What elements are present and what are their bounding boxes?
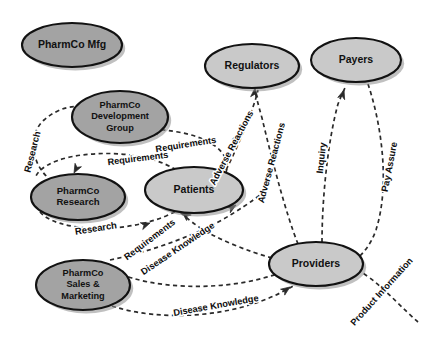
node-regulators[interactable]: Regulators <box>205 44 302 91</box>
node-label-regulators: Regulators <box>225 59 280 71</box>
node-providers[interactable]: Providers <box>269 242 366 289</box>
node-label-pharmco-sales-marketing: PharmCo <box>63 268 104 278</box>
edge-label-disease-knowledge-bottom: Disease KnowledgeDisease Knowledge <box>173 293 260 318</box>
arrowhead-inquiry <box>338 89 348 100</box>
edge-label-disease-knowledge-diagonal: Disease KnowledgeDisease Knowledge <box>139 220 216 277</box>
edge-label-adverse-reactions-regulators: Adverse ReactionsAdverse Reactions <box>256 122 287 205</box>
node-label-pharmco-research: PharmCo <box>57 185 100 196</box>
edge-sales-inbound <box>110 267 282 286</box>
node-label-pharmco-development-group: Development <box>91 111 149 121</box>
stakeholder-flow-diagram: PharmCo MfgPharmCoDevelopmentGroupPharmC… <box>0 0 428 341</box>
edge-path-pay-assure <box>334 84 383 270</box>
edge-label-text: Inquiry <box>314 141 328 174</box>
node-pharmco-mfg[interactable]: PharmCo Mfg <box>22 23 125 70</box>
node-label-pharmco-development-group: PharmCo <box>100 100 141 110</box>
edge-label-requirements-lower: RequirementsRequirements <box>107 150 169 167</box>
node-pharmco-sales-marketing[interactable]: PharmCoSales &Marketing <box>36 260 133 313</box>
arrowhead-disease-knowledge-bottom <box>281 284 293 295</box>
node-payers[interactable]: Payers <box>311 38 404 85</box>
node-label-pharmco-development-group: Group <box>106 123 134 133</box>
node-patients[interactable]: Patients <box>145 167 246 216</box>
node-pharmco-development-group[interactable]: PharmCoDevelopmentGroup <box>72 91 171 146</box>
edge-label-text: Requirements <box>107 150 169 167</box>
node-pharmco-research[interactable]: PharmCoResearch <box>31 174 128 223</box>
edge-path-sales-inbound <box>110 268 282 286</box>
edge-label-pay-assure: Pay AssurePay Assure <box>379 141 399 193</box>
node-label-pharmco-research: Research <box>56 196 99 207</box>
node-label-pharmco-sales-marketing: Sales & <box>66 279 100 289</box>
diagram-canvas: PharmCo MfgPharmCoDevelopmentGroupPharmC… <box>0 0 428 341</box>
edge-label-text: Disease Knowledge <box>173 293 260 318</box>
node-label-providers: Providers <box>292 257 341 269</box>
node-label-pharmco-sales-marketing: Marketing <box>61 291 104 301</box>
edge-label-text: Disease Knowledge <box>139 220 216 277</box>
edge-label-text: Pay Assure <box>379 141 399 193</box>
node-label-pharmco-mfg: PharmCo Mfg <box>38 38 106 50</box>
edge-label-inquiry: InquiryInquiry <box>314 141 328 174</box>
edge-path-adverse-reactions-regulators <box>255 90 298 244</box>
node-label-payers: Payers <box>339 53 374 65</box>
edge-label-text: Adverse Reactions <box>256 122 287 205</box>
node-label-patients: Patients <box>174 183 215 195</box>
